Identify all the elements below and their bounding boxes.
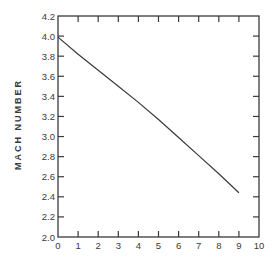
x-tick-label: 5 <box>156 240 161 251</box>
plot-frame <box>58 16 259 237</box>
x-tick-label: 2 <box>96 240 101 251</box>
mach-number-chart: MACH NUMBER 2.02.22.42.62.83.03.23.43.63… <box>0 0 272 257</box>
x-tick-label: 3 <box>116 240 121 251</box>
y-tick-label: 3.4 <box>42 91 55 102</box>
mach-number-line <box>58 37 239 193</box>
y-tick-label: 3.2 <box>42 111 55 122</box>
y-tick-label: 3.0 <box>42 131 55 142</box>
x-tick-label: 7 <box>196 240 201 251</box>
y-tick-label: 2.2 <box>42 211 55 222</box>
x-tick-label: 6 <box>176 240 181 251</box>
x-tick-label: 0 <box>55 240 60 251</box>
x-axis-ticks: 012345678910 <box>55 16 264 251</box>
y-tick-label: 2.4 <box>42 191 55 202</box>
y-tick-label: 4.0 <box>42 31 55 42</box>
x-tick-label: 9 <box>236 240 241 251</box>
x-tick-label: 1 <box>75 240 80 251</box>
x-tick-label: 4 <box>136 240 141 251</box>
y-tick-label: 3.6 <box>42 71 55 82</box>
y-axis-ticks: 2.02.22.42.62.83.03.23.43.63.84.04.2 <box>42 11 259 243</box>
y-tick-label: 4.2 <box>42 11 55 22</box>
y-axis-label: MACH NUMBER <box>13 79 23 170</box>
y-tick-label: 2.8 <box>42 151 55 162</box>
y-axis-title: MACH NUMBER <box>13 79 23 170</box>
x-tick-label: 10 <box>254 240 265 251</box>
y-tick-label: 2.6 <box>42 171 55 182</box>
x-tick-label: 8 <box>216 240 221 251</box>
y-tick-label: 2.0 <box>42 232 55 243</box>
y-tick-label: 3.8 <box>42 51 55 62</box>
